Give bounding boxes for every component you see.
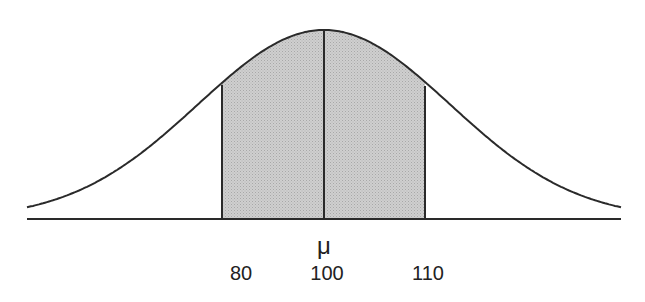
mean-symbol-label: μ <box>317 232 331 260</box>
tick-label-110: 110 <box>412 262 444 285</box>
tick-label-100: 100 <box>310 262 343 285</box>
tick-label-80: 80 <box>230 262 252 285</box>
